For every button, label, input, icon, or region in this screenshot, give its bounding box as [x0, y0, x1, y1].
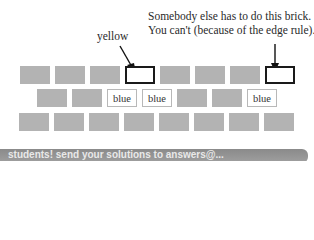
brick	[212, 89, 242, 107]
brick	[20, 66, 50, 84]
brick-blue: blue	[247, 89, 277, 107]
brick	[37, 89, 67, 107]
brick	[230, 66, 260, 84]
brick	[54, 113, 84, 131]
brick-blue: blue	[107, 89, 137, 107]
brick	[194, 113, 224, 131]
brick	[195, 66, 225, 84]
brick	[89, 113, 119, 131]
brick-edge-rule-outlined	[265, 66, 295, 84]
brick	[177, 89, 207, 107]
brick	[264, 113, 294, 131]
brick-blue: blue	[142, 89, 172, 107]
brick	[72, 89, 102, 107]
brick	[19, 113, 49, 131]
brick	[160, 66, 190, 84]
brick	[55, 66, 85, 84]
brick-yellow-outlined	[125, 66, 155, 84]
brick	[159, 113, 189, 131]
brick	[229, 113, 259, 131]
solutions-banner: students! send your solutions to answers…	[0, 149, 308, 161]
brick	[90, 66, 120, 84]
brick	[124, 113, 154, 131]
